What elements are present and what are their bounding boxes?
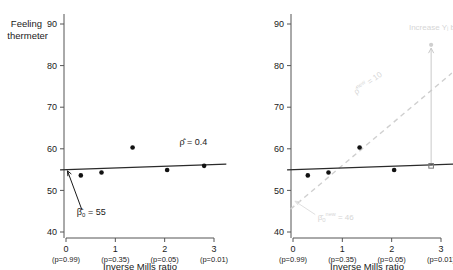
y-axis-tick-label: 50 <box>274 186 284 196</box>
new-rho-label: ρ̂new = 10 <box>351 68 384 96</box>
chart-panel-left: 4050607080900(p=0.99)1(p=0.35)2(p=0.05)3… <box>0 0 226 270</box>
data-point <box>130 145 135 150</box>
y-axis-tick-label: 50 <box>47 186 57 196</box>
figure-container: 4050607080900(p=0.99)1(p=0.35)2(p=0.05)3… <box>0 0 453 270</box>
x-axis-tick-label: 2 <box>389 244 394 254</box>
x-axis-tick-label: 1 <box>113 244 118 254</box>
increase-label: Increase Yᵢ by 30 <box>409 23 453 32</box>
y-axis-tick-label: 70 <box>47 102 57 112</box>
x-axis-tick-sublabel: (p=0.99) <box>279 255 308 264</box>
shifted-data-point <box>429 43 433 47</box>
x-axis-tick-label: 0 <box>63 244 68 254</box>
new-rho-label-tail: = 10 <box>364 70 384 88</box>
x-axis-title: Inverse Mills ratio <box>330 261 404 270</box>
beta0-hat-label: β̂0 = 55 <box>77 207 106 218</box>
x-axis-tick-label: 0 <box>290 244 295 254</box>
data-point <box>202 164 207 169</box>
y-axis-tick-label: 40 <box>274 227 284 237</box>
x-axis-title: Inverse Mills ratio <box>103 261 177 270</box>
x-axis-tick-label: 3 <box>211 244 216 254</box>
x-axis-tick-sublabel: (p=0.99) <box>52 255 81 264</box>
data-point <box>79 173 84 178</box>
new-beta0-label-sub: 0 <box>322 217 326 223</box>
right-plot-svg: 4050607080900(p=0.99)1(p=0.35)2(p=0.05)3… <box>227 0 453 270</box>
y-axis-tick-label: 80 <box>47 61 57 71</box>
new-beta0-label: β̂0new = 46 <box>318 211 355 223</box>
chart-panel-right: 4050607080900(p=0.99)1(p=0.35)2(p=0.05)3… <box>227 0 453 270</box>
data-point <box>306 173 311 178</box>
data-point <box>392 168 397 173</box>
x-axis-tick-sublabel: (p=0.01) <box>427 255 453 264</box>
new-beta0-arrow-shaft <box>295 201 315 214</box>
regression-line <box>287 164 453 170</box>
beta0-hat-label-tail: = 55 <box>85 207 105 217</box>
x-axis-tick-label: 2 <box>162 244 167 254</box>
new-regression-line <box>291 73 452 209</box>
y-axis-title-line1: Feeling <box>11 18 42 29</box>
new-beta0-label-sup: new <box>326 211 336 217</box>
y-axis-tick-label: 60 <box>47 144 57 154</box>
y-axis-title-line2: thermeter <box>7 30 48 41</box>
x-axis-tick-label: 3 <box>438 244 443 254</box>
regression-line <box>60 164 226 170</box>
y-axis-tick-label: 70 <box>274 102 284 112</box>
x-axis-tick-label: 1 <box>340 244 345 254</box>
data-point <box>99 170 104 175</box>
data-point <box>357 145 362 150</box>
rho-hat-label: ρ̂ = 0.4 <box>179 137 207 147</box>
left-plot-svg: 4050607080900(p=0.99)1(p=0.35)2(p=0.05)3… <box>0 0 226 270</box>
y-axis-tick-label: 40 <box>47 227 57 237</box>
y-axis-tick-label: 60 <box>274 144 284 154</box>
y-axis-tick-label: 90 <box>47 19 57 29</box>
y-axis-tick-label: 80 <box>274 61 284 71</box>
data-point <box>326 170 331 175</box>
data-point <box>165 168 170 173</box>
new-beta0-label-tail: = 46 <box>336 213 355 222</box>
y-axis-tick-label: 90 <box>274 19 284 29</box>
x-axis-tick-sublabel: (p=0.01) <box>200 255 229 264</box>
